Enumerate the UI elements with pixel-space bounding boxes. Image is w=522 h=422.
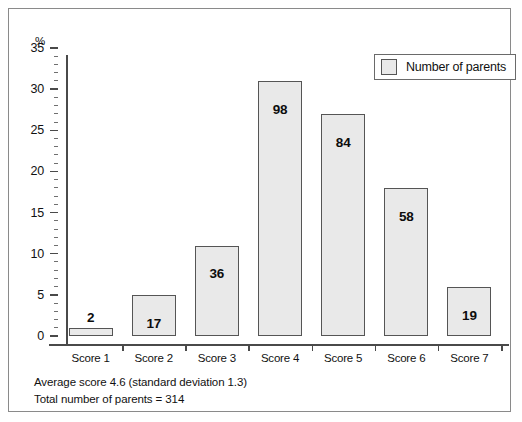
y-axis-minor-tick — [54, 278, 58, 279]
bar-score-4[interactable] — [258, 81, 302, 336]
y-axis-tick-label: 5 — [37, 289, 44, 302]
bar-score-1[interactable] — [69, 328, 113, 336]
y-axis-minor-tick — [54, 196, 58, 197]
x-axis-tick — [438, 345, 440, 351]
x-axis-label-score-7: Score 7 — [438, 352, 501, 365]
y-axis-minor-tick — [54, 80, 58, 81]
x-axis-tick — [375, 345, 377, 351]
x-axis-tick — [501, 345, 503, 351]
y-axis-minor-tick — [54, 229, 58, 230]
y-axis-minor-tick — [54, 303, 58, 304]
legend-label-number-of-parents: Number of parents — [406, 61, 506, 74]
bar-value-label: 98 — [258, 103, 302, 117]
y-axis-minor-tick — [54, 220, 58, 221]
y-axis-minor-tick — [54, 56, 58, 57]
x-axis-tick — [312, 345, 314, 351]
x-axis-line — [49, 344, 509, 346]
chart-frame: % 05101520253035 Score 1Score 2Score 3Sc… — [8, 8, 511, 412]
y-axis-minor-tick — [54, 237, 58, 238]
bar-score-3[interactable] — [195, 246, 239, 337]
y-axis-major-tick — [50, 253, 58, 255]
x-axis-tick — [185, 345, 187, 351]
y-axis-minor-tick — [54, 204, 58, 205]
x-axis-tick — [122, 345, 124, 351]
chart-footnotes: Average score 4.6 (standard deviation 1.… — [34, 374, 247, 407]
y-axis-minor-tick — [54, 163, 58, 164]
y-axis-tick-label: 0 — [37, 330, 44, 343]
y-axis-minor-tick — [54, 113, 58, 114]
y-axis-major-tick — [50, 88, 58, 90]
plot-area — [59, 48, 501, 336]
x-axis-tick — [248, 345, 250, 351]
y-axis-tick-label: 10 — [30, 247, 44, 260]
bar-value-label: 2 — [69, 311, 113, 325]
y-axis-major-tick — [50, 335, 58, 337]
y-axis-minor-tick — [54, 72, 58, 73]
bar-value-label: 19 — [447, 309, 491, 323]
y-axis-major-tick — [50, 171, 58, 173]
y-axis-minor-tick — [54, 311, 58, 312]
x-axis-label-score-1: Score 1 — [59, 352, 122, 365]
y-axis-minor-tick — [54, 97, 58, 98]
y-axis-minor-tick — [54, 154, 58, 155]
y-axis-minor-tick — [54, 319, 58, 320]
chart-legend: Number of parents — [374, 54, 516, 80]
y-axis-minor-tick — [54, 187, 58, 188]
y-axis-minor-tick — [54, 105, 58, 106]
legend-swatch-number-of-parents — [381, 59, 397, 75]
bar-value-label: 36 — [195, 267, 239, 281]
bar-value-label: 84 — [321, 136, 365, 150]
y-axis-minor-tick — [54, 286, 58, 287]
bar-value-label: 17 — [132, 317, 176, 331]
footnote-average-score: Average score 4.6 (standard deviation 1.… — [34, 374, 247, 391]
y-axis-tick-label: 15 — [30, 206, 44, 219]
y-axis-minor-tick — [54, 327, 58, 328]
y-axis-tick-label: 35 — [30, 42, 44, 55]
x-axis-label-score-3: Score 3 — [185, 352, 248, 365]
y-axis-minor-tick — [54, 64, 58, 65]
y-axis-minor-tick — [54, 138, 58, 139]
y-axis-minor-tick — [54, 146, 58, 147]
y-axis-tick-label: 30 — [30, 83, 44, 96]
y-axis-minor-tick — [54, 179, 58, 180]
y-axis-major-tick — [50, 130, 58, 132]
y-axis-minor-tick — [54, 270, 58, 271]
y-axis-major-tick — [50, 294, 58, 296]
x-axis-label-score-5: Score 5 — [312, 352, 375, 365]
bar-value-label: 58 — [384, 210, 428, 224]
y-axis-minor-tick — [54, 261, 58, 262]
footnote-total-parents: Total number of parents = 314 — [34, 391, 247, 408]
x-axis-label-score-2: Score 2 — [122, 352, 185, 365]
y-axis-tick-label: 25 — [30, 124, 44, 137]
x-axis-label-score-6: Score 6 — [375, 352, 438, 365]
y-axis-tick-label: 20 — [30, 165, 44, 178]
y-axis-minor-tick — [54, 122, 58, 123]
x-axis-label-score-4: Score 4 — [248, 352, 311, 365]
y-axis-major-tick — [50, 212, 58, 214]
y-axis-ticks — [45, 9, 58, 356]
y-axis-major-tick — [50, 47, 58, 49]
y-axis-minor-tick — [54, 245, 58, 246]
